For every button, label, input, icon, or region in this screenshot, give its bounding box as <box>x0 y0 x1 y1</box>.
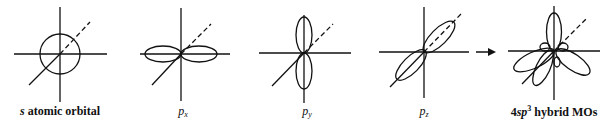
sp3-minor-lobe-left <box>540 43 550 51</box>
z-axis-dashed <box>304 24 333 53</box>
z-axis-dashed <box>60 22 90 54</box>
z-axis-dashed <box>181 24 211 54</box>
label-sp3-hybrid-mos: 4sp3 hybrid MOs <box>511 104 598 120</box>
z-axis-solid <box>29 54 60 85</box>
label-sp3-rest: hybrid MOs <box>531 105 597 119</box>
label-s-rest: atomic orbital <box>25 104 100 118</box>
pz-orbital-panel <box>379 7 469 98</box>
label-py: py <box>302 104 312 119</box>
sp3-lobe-lower-left <box>529 48 558 88</box>
label-pz: pz <box>419 104 428 119</box>
z-axis-dashed <box>424 14 461 52</box>
sp3-minor-lobe-bottom <box>554 57 560 67</box>
label-sp3-italic: sp <box>517 105 528 119</box>
label-s-atomic-orbital: s atomic orbital <box>20 104 100 119</box>
sp3-minor-lobe-right <box>558 43 568 51</box>
label-px-sub: x <box>184 110 188 119</box>
arrow-right-icon <box>476 48 496 56</box>
label-px: px <box>178 104 188 119</box>
sp3-orbital-panel <box>508 6 600 100</box>
py-orbital-panel <box>259 15 351 103</box>
label-pz-sub: z <box>425 110 428 119</box>
label-py-sub: y <box>308 110 312 119</box>
px-orbital-panel <box>140 8 230 101</box>
s-orbital-panel <box>14 7 107 102</box>
